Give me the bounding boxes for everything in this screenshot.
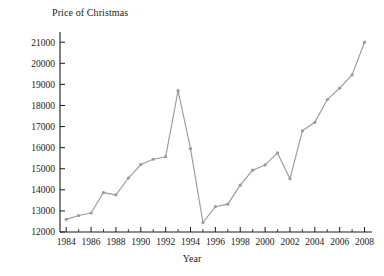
data-point-marker bbox=[239, 184, 242, 187]
x-tick-label: 2006 bbox=[330, 237, 349, 247]
data-point-marker bbox=[102, 191, 105, 194]
data-point-marker bbox=[251, 169, 254, 172]
data-point-marker bbox=[127, 176, 130, 179]
y-tick-label: 15000 bbox=[31, 164, 55, 174]
data-point-marker bbox=[276, 151, 279, 154]
data-point-marker bbox=[189, 147, 192, 150]
data-point-marker bbox=[338, 87, 341, 90]
data-point-marker bbox=[288, 177, 291, 180]
data-point-marker bbox=[351, 73, 354, 76]
x-tick-label: 1994 bbox=[181, 237, 200, 247]
data-point-marker bbox=[164, 155, 167, 158]
line-chart-plot: 1200013000140001500016000170001800019000… bbox=[0, 0, 384, 276]
data-point-marker bbox=[214, 205, 217, 208]
x-tick-label: 2000 bbox=[256, 237, 275, 247]
data-point-marker bbox=[152, 158, 155, 161]
x-tick-label: 1998 bbox=[231, 237, 250, 247]
data-point-marker bbox=[301, 129, 304, 132]
x-axis-label: Year bbox=[0, 253, 384, 264]
y-tick-label: 21000 bbox=[31, 38, 55, 48]
y-tick-label: 16000 bbox=[31, 143, 55, 153]
data-point-marker bbox=[313, 121, 316, 124]
data-point-marker bbox=[363, 41, 366, 44]
y-tick-label: 12000 bbox=[31, 227, 55, 237]
x-tick-label: 1984 bbox=[57, 237, 76, 247]
data-point-marker bbox=[201, 221, 204, 224]
data-point-marker bbox=[114, 193, 117, 196]
x-tick-label: 1990 bbox=[131, 237, 150, 247]
chart-page: Price of Christmas 120001300014000150001… bbox=[0, 0, 384, 276]
y-tick-label: 17000 bbox=[31, 122, 55, 132]
y-tick-label: 19000 bbox=[31, 80, 55, 90]
data-point-marker bbox=[139, 163, 142, 166]
x-tick-label: 1986 bbox=[82, 237, 101, 247]
series-line-price bbox=[66, 42, 364, 222]
y-tick-label: 20000 bbox=[31, 59, 55, 69]
data-point-marker bbox=[226, 203, 229, 206]
y-tick-label: 14000 bbox=[31, 185, 55, 195]
data-point-marker bbox=[77, 214, 80, 217]
x-tick-label: 2008 bbox=[355, 237, 374, 247]
y-tick-label: 13000 bbox=[31, 206, 55, 216]
data-point-marker bbox=[264, 163, 267, 166]
data-point-marker bbox=[326, 98, 329, 101]
x-tick-label: 2004 bbox=[305, 237, 324, 247]
x-tick-label: 1992 bbox=[156, 237, 175, 247]
x-tick-label: 2002 bbox=[280, 237, 299, 247]
data-point-marker bbox=[176, 89, 179, 92]
data-point-marker bbox=[65, 218, 68, 221]
data-point-marker bbox=[89, 211, 92, 214]
y-tick-label: 18000 bbox=[31, 101, 55, 111]
x-tick-label: 1996 bbox=[206, 237, 225, 247]
x-tick-label: 1988 bbox=[106, 237, 125, 247]
